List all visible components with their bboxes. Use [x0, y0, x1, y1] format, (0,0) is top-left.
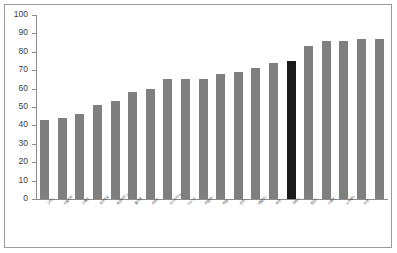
y-axis: 1009080706050403020100: [0, 0, 40, 253]
bar: [128, 92, 137, 199]
bar: [199, 79, 208, 199]
bar: [322, 41, 331, 199]
bar-slot: [300, 54, 318, 199]
bar-slot: [318, 54, 336, 199]
y-axis-tick-label: 90: [19, 27, 28, 38]
bar-highlighted: [287, 61, 296, 199]
bar-slot: [36, 54, 54, 199]
y-axis-tick-label: 50: [19, 101, 28, 112]
bar-slot: [353, 54, 371, 199]
y-axis-tick-label: 20: [19, 156, 28, 167]
bar-chart-figure: 1009080706050403020100 그리스이탈리아스페인포르투갈룩셈부…: [0, 0, 397, 253]
y-axis-tick-label: 30: [19, 138, 28, 149]
y-axis-tick-label: 0: [23, 193, 28, 204]
bar: [357, 39, 366, 199]
bar-slot: [142, 54, 160, 199]
bar: [75, 114, 84, 199]
y-axis-tick-label: 100: [14, 9, 28, 20]
bar: [234, 72, 243, 199]
bar: [375, 39, 384, 199]
y-axis-tick-label: 60: [19, 83, 28, 94]
y-axis-tick-label: 70: [19, 64, 28, 75]
bar-slot: [194, 54, 212, 199]
y-axis-tick-label: 80: [19, 46, 28, 57]
bar-slot: [124, 54, 142, 199]
y-axis-tick-label: 40: [19, 119, 28, 130]
bar-slot: [282, 54, 300, 199]
bar-slot: [89, 54, 107, 199]
bar-slot: [159, 54, 177, 199]
bar-slot: [247, 54, 265, 199]
bars-layer: [36, 0, 388, 253]
bar: [58, 118, 67, 199]
bar: [269, 63, 278, 199]
bar-slot: [265, 54, 283, 199]
bar: [181, 79, 190, 199]
bar: [339, 41, 348, 199]
bar-slot: [177, 54, 195, 199]
bar-slot: [71, 54, 89, 199]
bar: [304, 46, 313, 199]
bar-slot: [106, 54, 124, 199]
bar-slot: [54, 54, 72, 199]
bar-slot: [212, 54, 230, 199]
y-axis-tick-label: 10: [19, 175, 28, 186]
bar: [146, 89, 155, 199]
bar-slot: [370, 54, 388, 199]
bar: [216, 74, 225, 199]
bar-slot: [230, 54, 248, 199]
bar-slot: [335, 54, 353, 199]
bar: [111, 101, 120, 199]
bar: [93, 105, 102, 199]
bar: [251, 68, 260, 199]
bar: [40, 120, 49, 199]
bar: [163, 79, 172, 199]
